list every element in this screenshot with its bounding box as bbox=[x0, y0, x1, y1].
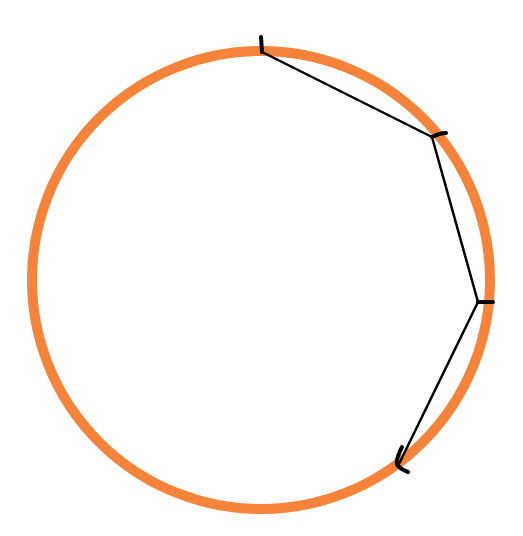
vertex-tick-marks bbox=[261, 37, 493, 472]
circle-chord-diagram bbox=[0, 0, 523, 536]
chord-polyline bbox=[262, 52, 478, 466]
orange-circle bbox=[32, 51, 490, 509]
vertex-tick-1 bbox=[261, 37, 262, 52]
